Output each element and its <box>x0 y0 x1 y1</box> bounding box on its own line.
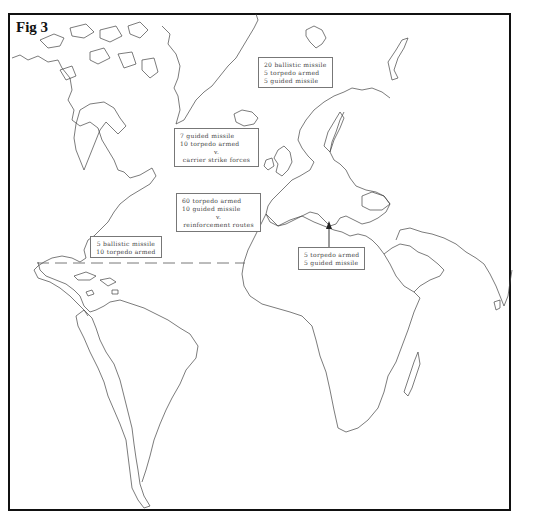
black-sea-outline <box>362 192 390 210</box>
annotation-line: 10 torpedo armed <box>96 248 156 256</box>
sri-lanka-outline <box>494 300 500 310</box>
annotation-box-mid-atlantic: 60 torpedo armed 10 guided missile v. re… <box>176 193 261 232</box>
annotation-line: reinforcement routes <box>182 221 255 229</box>
central-america-outline <box>38 262 110 312</box>
annotation-line: 5 torpedo armed <box>304 251 359 259</box>
greenland-outline <box>162 14 258 124</box>
annotation-line: 5 torpedo armed <box>264 69 327 77</box>
annotation-line: 7 guided missile <box>180 132 253 140</box>
annotation-box-mediterranean: 5 torpedo armed 5 guided missile <box>298 247 365 270</box>
annotation-line: 20 ballistic missile <box>264 61 327 69</box>
annotation-line: 5 guided missile <box>264 77 327 85</box>
annotation-line: 5 ballistic missile <box>96 240 156 248</box>
annotation-line: 10 guided missile <box>182 205 255 213</box>
annotation-line: carrier strike forces <box>180 156 253 164</box>
europe-outline <box>266 88 390 226</box>
british-isles-outline <box>264 146 292 176</box>
south-america-outline <box>76 300 198 508</box>
middle-east-outline <box>384 228 512 306</box>
arctic-islands <box>40 22 158 80</box>
madagascar-outline <box>404 352 420 396</box>
annotation-line: v. <box>182 213 255 221</box>
annotation-box-caribbean: 5 ballistic missile 10 torpedo armed <box>90 236 162 258</box>
caribbean-islands <box>74 272 118 296</box>
annotation-line: 60 torpedo armed <box>182 197 255 205</box>
hudson-bay-outline <box>74 102 126 170</box>
annotation-line: 5 guided missile <box>304 259 359 267</box>
mediterranean-arrow-head <box>326 221 332 229</box>
figure-title: Fig 3 <box>16 19 48 36</box>
annotation-box-norwegian-sea: 20 ballistic missile 5 torpedo armed 5 g… <box>258 57 333 88</box>
annotation-line: v. <box>180 148 253 156</box>
svalbard-outline <box>306 26 326 48</box>
novaya-zemlya-outline <box>388 38 408 80</box>
annotation-box-north-atlantic-gap: 7 guided missile 10 torpedo armed v. car… <box>174 128 259 167</box>
north-america-outline <box>12 55 156 316</box>
annotation-line: 10 torpedo armed <box>180 140 253 148</box>
iceland-outline <box>234 110 258 126</box>
